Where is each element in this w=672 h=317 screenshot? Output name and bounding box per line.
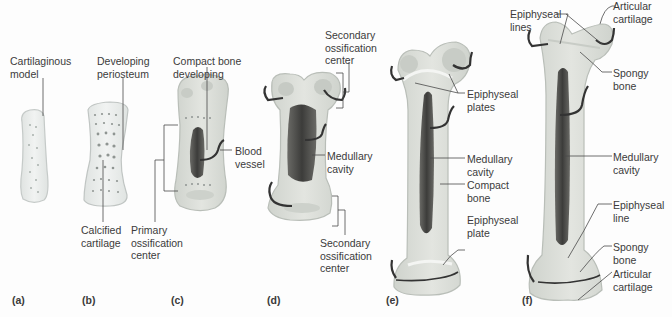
panel-letter-f: (f) [522,294,533,306]
panel-f-mature-bone [528,6,616,300]
label-calcified-cartilage: Calcified cartilage [81,224,121,249]
panel-letter-c: (c) [171,294,184,306]
label-blood-vessel: Blood vessel [235,145,265,170]
label-epiphyseal-plates: Epiphyseal plates [467,88,518,113]
label-cartilaginous-model: Cartilaginous model [10,55,71,80]
label-articular-cartilage-bottom: Articular cartilage [613,268,653,293]
panel-letter-a: (a) [12,294,25,306]
label-epiphyseal-plate: Epiphyseal plate [467,214,518,239]
panel-c-primary-ossification [155,67,232,222]
label-medullary-cavity-d: Medullary cavity [327,150,373,175]
panel-a-cartilage-model [21,78,48,202]
panel-d-secondary-ossification [264,62,349,235]
endochondral-ossification-figure: Cartilaginous model (a) Developing perio… [0,0,672,317]
label-epiphyseal-line: Epiphyseal line [613,199,664,224]
label-secondary-ossification-center-top: Secondary ossification center [325,29,377,67]
panel-e-epiphyseal-plates [391,42,472,295]
label-medullary-cavity-f: Medullary cavity [613,151,659,176]
label-developing-periosteum: Developing periosteum [97,55,150,80]
label-compact-bone: Compact bone [467,179,509,204]
panel-letter-e: (e) [386,294,399,306]
panel-b-developing-periosteum [84,78,128,222]
label-epiphyseal-lines: Epiphyseal lines [510,8,561,33]
panel-letter-b: (b) [82,294,95,306]
label-spongy-bone-top: Spongy bone [613,67,649,92]
label-medullary-cavity-e: Medullary cavity [467,153,513,178]
label-spongy-bone-bottom: Spongy bone [613,241,649,266]
label-primary-ossification-center: Primary ossification center [131,224,183,262]
label-articular-cartilage-top: Articular cartilage [613,0,653,25]
panel-letter-d: (d) [267,294,280,306]
label-compact-bone-developing: Compact bone developing [173,55,241,80]
label-secondary-ossification-center-bottom: Secondary ossification center [320,237,372,275]
